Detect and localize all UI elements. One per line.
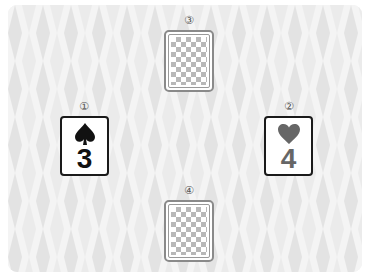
card-back-frame bbox=[168, 204, 210, 258]
card-spade-3[interactable]: 3 bbox=[60, 116, 109, 176]
card-face-down-4[interactable] bbox=[164, 200, 214, 262]
card-rank: 4 bbox=[266, 145, 311, 173]
checkerboard-back-pattern bbox=[171, 37, 207, 85]
checkerboard-back-pattern bbox=[171, 207, 207, 255]
slot-label-1: ① bbox=[74, 101, 94, 113]
card-rank: 3 bbox=[62, 145, 107, 173]
slot-label-2: ② bbox=[279, 101, 299, 113]
card-face-down-3[interactable] bbox=[164, 30, 214, 92]
slot-label-3: ③ bbox=[179, 15, 199, 27]
card-heart-4[interactable]: 4 bbox=[264, 116, 313, 176]
slot-label-4: ④ bbox=[179, 185, 199, 197]
card-back-frame bbox=[168, 34, 210, 88]
